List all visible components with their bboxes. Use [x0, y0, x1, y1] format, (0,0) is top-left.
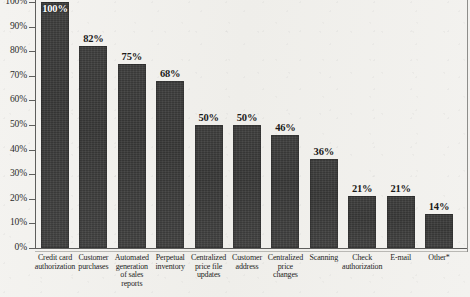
bar-value-label: 46% — [263, 122, 307, 133]
bar — [310, 159, 338, 248]
y-axis-tick-label: 50% — [0, 119, 27, 129]
category-label-line: reports — [106, 280, 158, 289]
y-axis-tick-label: 70% — [0, 70, 27, 80]
bar — [195, 125, 223, 248]
bar — [387, 196, 415, 248]
bar-value-label: 21% — [340, 183, 384, 194]
bar — [118, 64, 146, 249]
bar-value-label: 14% — [417, 201, 461, 212]
bar-value-label: 50% — [225, 112, 269, 123]
y-axis-line — [35, 0, 36, 249]
y-axis-tick-label: 10% — [0, 217, 27, 227]
category-label-line: Other* — [413, 254, 465, 263]
y-axis-tick-label: 100% — [0, 0, 27, 6]
y-axis-tick — [29, 223, 35, 224]
y-axis-tick — [29, 51, 35, 52]
y-axis-tick — [29, 76, 35, 77]
bar — [156, 81, 184, 248]
x-axis-shadow-line — [35, 251, 468, 252]
category-label-line: updates — [183, 271, 235, 280]
bar-chart: 0%10%20%30%40%50%60%70%80%90%100% 100%82… — [0, 0, 470, 297]
y-axis-tick — [29, 125, 35, 126]
y-axis-tick-label: 60% — [0, 94, 27, 104]
bar — [425, 214, 453, 248]
bar-value-label: 36% — [302, 146, 346, 157]
bar — [79, 46, 107, 248]
chart-frame-right-border — [467, 0, 468, 252]
bar-value-label: 100% — [33, 3, 77, 14]
y-axis-tick — [29, 248, 35, 249]
y-axis-tick-label: 0% — [0, 242, 27, 252]
bar-value-label: 21% — [379, 183, 423, 194]
y-axis-tick — [29, 150, 35, 151]
y-axis-tick — [29, 100, 35, 101]
y-axis-tick — [29, 174, 35, 175]
category-label-line: changes — [259, 271, 311, 280]
bar-value-label: 68% — [148, 68, 192, 79]
bar-value-label: 50% — [187, 112, 231, 123]
category-label-line: authorization — [336, 263, 388, 272]
bar — [348, 196, 376, 248]
y-axis-tick — [29, 27, 35, 28]
x-axis-line — [35, 248, 468, 249]
y-axis-tick-label: 90% — [0, 21, 27, 31]
category-label: Other* — [413, 254, 465, 263]
y-axis-tick-label: 40% — [0, 144, 27, 154]
bar-value-label: 75% — [110, 51, 154, 62]
y-axis-tick — [29, 199, 35, 200]
bar — [41, 2, 69, 248]
y-axis-tick-label: 80% — [0, 45, 27, 55]
y-axis-tick-label: 30% — [0, 168, 27, 178]
bar-value-label: 82% — [71, 33, 115, 44]
bar — [233, 125, 261, 248]
bar — [271, 135, 299, 248]
y-axis-tick-label: 20% — [0, 193, 27, 203]
